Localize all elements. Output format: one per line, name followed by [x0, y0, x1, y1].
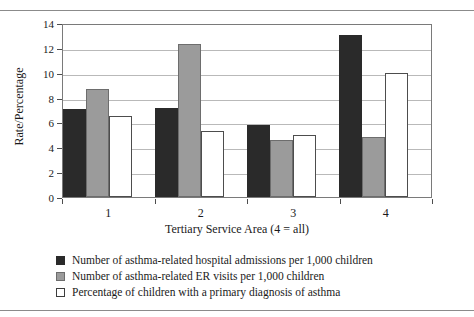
bar — [178, 44, 201, 197]
top-divider-rule — [0, 10, 474, 11]
y-axis-tick-label: 12 — [43, 43, 54, 54]
x-axis-tick-label: 4 — [340, 206, 433, 221]
legend-item: Number of asthma-related hospital admiss… — [56, 252, 456, 268]
y-axis-tick-label: 4 — [49, 143, 55, 154]
legend-swatch-white — [56, 288, 65, 297]
bar — [293, 135, 316, 197]
bar — [109, 116, 132, 197]
plot-area — [62, 24, 432, 198]
bar-group — [339, 25, 431, 197]
bar — [63, 109, 86, 197]
y-axis-tick-label: 0 — [49, 193, 55, 204]
x-axis-tick-mark — [340, 199, 341, 204]
legend-swatch-dark — [56, 256, 65, 265]
bar — [247, 125, 270, 197]
legend-item: Percentage of children with a primary di… — [56, 284, 456, 300]
bar-groups — [63, 25, 431, 197]
bar — [270, 140, 293, 197]
bottom-divider-rule — [0, 310, 474, 311]
x-axis-tick-label: 1 — [62, 206, 155, 221]
bar-group — [63, 25, 155, 197]
chart-legend: Number of asthma-related hospital admiss… — [56, 252, 456, 300]
bar — [155, 108, 178, 197]
bar — [362, 137, 385, 197]
bar — [201, 131, 224, 197]
x-axis-tick-mark — [432, 199, 433, 204]
legend-item: Number of asthma-related ER visits per 1… — [56, 268, 456, 284]
bar-group — [247, 25, 339, 197]
x-axis-tick-label: 2 — [155, 206, 248, 221]
y-axis-tick-label: 2 — [49, 168, 55, 179]
bar-group — [155, 25, 247, 197]
x-axis-tick-label: 3 — [247, 206, 340, 221]
y-axis: Rate/Percentage 02468101214 — [0, 24, 62, 198]
bar — [385, 73, 408, 197]
x-axis-title: Tertiary Service Area (4 = all) — [0, 222, 474, 237]
bar — [339, 35, 362, 197]
y-axis-title: Rate/Percentage — [12, 52, 27, 162]
y-axis-tick-label: 14 — [43, 19, 54, 30]
x-axis-tick-labels: 1234 — [62, 206, 432, 221]
legend-item-label: Percentage of children with a primary di… — [72, 286, 340, 298]
bar — [86, 89, 109, 197]
legend-item-label: Number of asthma-related hospital admiss… — [72, 254, 373, 266]
legend-item-label: Number of asthma-related ER visits per 1… — [72, 270, 324, 282]
y-axis-tick-label: 8 — [49, 93, 55, 104]
legend-swatch-gray — [56, 272, 65, 281]
x-axis-tick-mark — [155, 199, 156, 204]
y-axis-tick-label: 10 — [43, 68, 54, 79]
x-axis-tick-mark — [62, 199, 63, 204]
y-axis-tick-label: 6 — [49, 118, 55, 129]
x-axis-tick-mark — [247, 199, 248, 204]
